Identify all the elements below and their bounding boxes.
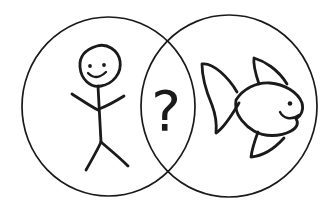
stick-figure-head xyxy=(80,45,120,86)
fish-dorsal-fin xyxy=(254,58,287,84)
stick-figure-smile xyxy=(88,72,106,77)
stick-figure-left-leg xyxy=(86,142,101,170)
fish-tail xyxy=(202,64,239,133)
question-mark: ? xyxy=(151,78,181,143)
stick-figure-body xyxy=(98,86,101,142)
venn-diagram: ? xyxy=(0,0,331,212)
fish-mouth xyxy=(280,112,299,118)
fish-body xyxy=(236,83,303,136)
stick-figure-person-icon xyxy=(72,45,128,170)
stick-figure-right-leg xyxy=(101,142,128,166)
fish-icon xyxy=(202,58,303,157)
fish-eye xyxy=(288,101,293,106)
stick-figure-left-eye xyxy=(88,64,92,68)
stick-figure-right-arm xyxy=(99,96,124,109)
stick-figure-right-eye xyxy=(102,63,106,67)
drawing-canvas: ? xyxy=(0,0,331,212)
stick-figure-left-arm xyxy=(72,94,98,110)
